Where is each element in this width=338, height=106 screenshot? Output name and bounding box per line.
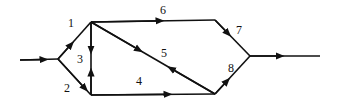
edge-7: 7 <box>215 20 250 56</box>
edge-label-2: 2 <box>64 81 70 95</box>
arrow-up-left-icon <box>171 69 215 95</box>
edge-2: 2 <box>58 59 91 95</box>
edge-3: 3 <box>77 22 91 95</box>
arrow-up-right-icon <box>58 45 71 60</box>
edge-6: 6 <box>91 3 215 22</box>
arrow-up-right-icon <box>215 81 227 94</box>
edge-label-6: 6 <box>160 3 166 17</box>
edge-label-3: 3 <box>77 52 83 66</box>
edge-label-1: 1 <box>68 16 74 30</box>
edge-5: 5 <box>91 22 215 94</box>
edge-label-8: 8 <box>228 61 234 75</box>
edge-8: 8 <box>215 56 250 94</box>
edge-label-4: 4 <box>136 74 142 88</box>
network-diagram: 1 2 3 6 5 4 7 8 <box>0 0 338 106</box>
edge-1: 1 <box>58 16 91 59</box>
arrow-right-icon <box>91 21 160 22</box>
edge-input <box>20 59 58 60</box>
arrow-down-right-icon <box>91 22 139 50</box>
edge-label-7: 7 <box>236 23 242 37</box>
edge-4: 4 <box>91 74 215 95</box>
edge-label-5: 5 <box>161 46 167 60</box>
arrow-right-icon <box>91 94 168 95</box>
arrow-down-right-icon <box>215 20 228 33</box>
